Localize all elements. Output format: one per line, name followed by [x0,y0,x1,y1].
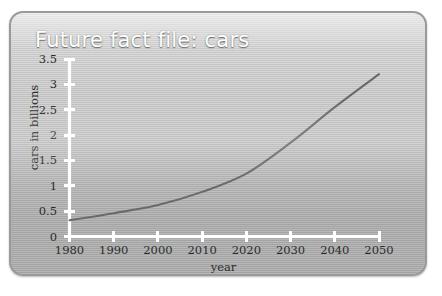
y-axis-label: cars in billions [28,68,41,188]
x-axis-label: year [68,261,379,274]
plot-area: 00.511.522.533.5 19801990200020102020203… [11,13,427,276]
chart-figure: Future fact file: cars 00.511.522.533.5 … [0,0,442,296]
series-path [70,74,380,220]
series-line-cars [11,13,427,276]
chart-panel: Future fact file: cars 00.511.522.533.5 … [9,11,427,276]
